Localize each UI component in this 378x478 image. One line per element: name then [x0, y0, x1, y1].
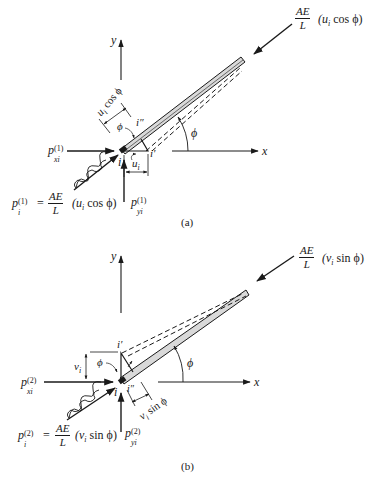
inner-angle-label-b: ϕ [97, 357, 103, 368]
ui-label-a: ui [132, 158, 140, 172]
axial-force-wave-a [74, 152, 118, 190]
end-force-arrow-a [254, 24, 292, 54]
force-py-label-a: p(1)yi [131, 196, 147, 208]
x-axis-label-a: x [262, 145, 267, 157]
node-i-prime-label-b: i′ [117, 339, 122, 350]
caption-b: (b) [181, 460, 194, 472]
y-axis-label-b: y [111, 250, 116, 262]
end-force-expr-a: (ui cos ϕ) [318, 13, 363, 28]
axial-force-fraction-b: AE L [55, 423, 70, 448]
bar-a [121, 57, 245, 154]
vi-sin-dimension-b [132, 394, 149, 402]
axial-force-fraction-a: AE L [48, 191, 63, 216]
axial-force-expr-b: (vi sin ϕ) [75, 429, 117, 444]
truss-figure [0, 0, 378, 478]
node-i-prime-label-a: i′ [150, 148, 155, 159]
end-force-expr-b: (vi sin ϕ) [322, 252, 364, 267]
node-i-label-a: i [118, 156, 121, 168]
axial-force-expr-a: (ui cos ϕ) [72, 197, 117, 212]
end-force-arrow-b [257, 256, 294, 281]
angle-arc-b [174, 346, 183, 382]
node-i-label-b: i [114, 386, 117, 398]
axial-force-equation-b: p(2)i = [18, 429, 54, 441]
y-axis-label-a: y [111, 34, 116, 46]
node-i-double-prime-label-a: i″ [136, 117, 144, 128]
force-px-label-a: p(1)xi [48, 144, 64, 156]
force-px-label-b: p(2)xi [21, 376, 37, 388]
end-force-fraction-a: AE L [295, 6, 310, 31]
angle-label-b: ϕ [187, 357, 193, 369]
force-py-label-b: p(2)yi [125, 427, 141, 439]
axial-force-equation-a: p(1)i = [12, 197, 48, 209]
node-i-double-prime-label-b: i″ [127, 384, 134, 394]
angle-label-a: ϕ [191, 127, 197, 139]
x-axis-label-b: x [254, 376, 259, 388]
angle-arc-a [178, 117, 188, 151]
end-force-fraction-b: AE L [299, 245, 314, 270]
inner-angle-label-a: ϕ [117, 121, 123, 132]
axial-force-wave-b [67, 382, 115, 420]
vi-label-b: vi [74, 361, 81, 375]
caption-a: (a) [181, 216, 193, 228]
